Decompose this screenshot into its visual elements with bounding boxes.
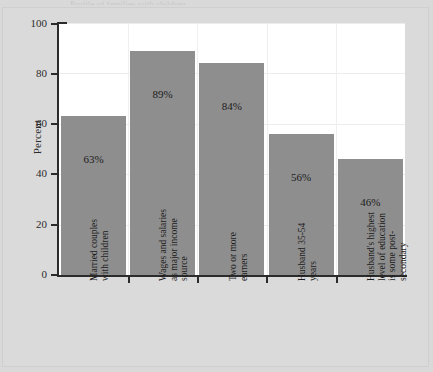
y-tick-mark (51, 173, 58, 175)
x-category-label-husband-post-secondary: Husband's highest level of education is … (366, 189, 408, 281)
x-tick-mark (197, 277, 199, 283)
bar-value-label: 84% (199, 101, 264, 112)
gridline-vertical (197, 23, 198, 275)
x-category-label-wages-and-salaries: Wages and salaries as major income sourc… (158, 189, 190, 281)
x-category-label-married-couples: Married couples with children (89, 189, 110, 281)
scanned-page: Profile of families with children 63% 89… (0, 0, 433, 372)
y-tick-mark (51, 274, 58, 276)
gridline-vertical (128, 23, 129, 275)
y-tick-label: 0 (7, 269, 47, 280)
x-tick-mark (128, 277, 130, 283)
y-axis-title: Percent (31, 92, 43, 182)
y-axis-line (57, 22, 59, 276)
bar-chart: 63% 89% 84% 56% 46% 0 20 4 (0, 0, 433, 372)
y-tick-mark (51, 73, 58, 75)
x-tick-mark (336, 277, 338, 283)
y-axis-top-cap (57, 22, 67, 24)
y-tick-mark (51, 224, 58, 226)
gridline-vertical (267, 23, 268, 275)
y-tick-mark (51, 123, 58, 125)
gridline-horizontal (59, 23, 405, 24)
bar-value-label: 56% (269, 172, 334, 183)
x-category-label-two-or-more-earners: Two or more earners (228, 189, 249, 281)
y-tick-label: 80 (7, 68, 47, 79)
y-tick-mark (51, 23, 58, 25)
gridline-vertical (336, 23, 337, 275)
x-category-label-husband-35-54: Husband 35-54 years (297, 189, 318, 281)
x-tick-mark (266, 277, 268, 283)
y-tick-label: 100 (7, 18, 47, 29)
bar-value-label: 63% (61, 154, 126, 165)
y-tick-label: 20 (7, 219, 47, 230)
bar-value-label: 89% (130, 89, 195, 100)
